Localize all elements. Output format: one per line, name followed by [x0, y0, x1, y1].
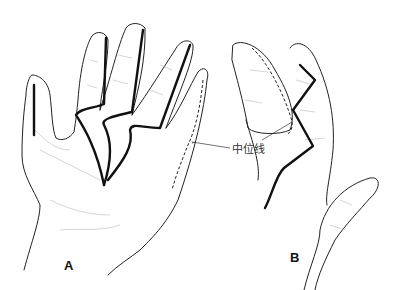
panel-a-label: A [64, 258, 73, 273]
hand-illustration [0, 0, 394, 290]
panel-b-label: B [290, 250, 299, 265]
panel-a-hand-drawing [22, 24, 208, 276]
figure-canvas: 中位线 A B [0, 0, 394, 290]
midline-annotation: 中位线 [232, 140, 265, 156]
panel-b-finger-drawing [232, 42, 378, 290]
